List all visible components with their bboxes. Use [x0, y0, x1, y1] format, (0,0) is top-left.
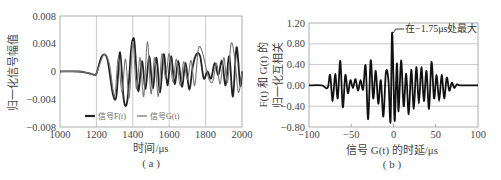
chart-b-peak-annotation: 在−1.75μs处最大	[393, 22, 477, 34]
y-tick-label: −0.004	[26, 94, 56, 105]
x-tick-label: 1200	[86, 129, 107, 140]
series-line	[309, 33, 478, 123]
y-tick-label: 0.00	[287, 80, 305, 91]
y-tick-label: −0.40	[281, 101, 305, 112]
y-tick-label: 0.008	[32, 11, 56, 22]
chart-panel-a: −0.008−0.00400.0040.008 1000120014001600…	[6, 11, 253, 171]
chart-b-caption: ( b )	[383, 158, 402, 171]
legend-label-g: 信号G(t)	[150, 111, 180, 121]
x-tick-label: 1800	[195, 129, 216, 140]
chart-a-y-tick-labels: −0.008−0.00400.0040.008	[26, 11, 56, 133]
y-tick-label: 0.004	[32, 38, 56, 49]
annotation-text: 在−1.75μs处最大	[405, 22, 477, 34]
chart-a-y-axis-label: 归一化信号幅值	[6, 34, 19, 111]
chart-b-y-tick-labels: −0.80−0.400.000.400.801.20	[281, 18, 305, 133]
chart-b-x-tick-labels: −100−50050100	[298, 129, 486, 140]
legend-label-f: 信号F(t)	[98, 111, 126, 121]
y-tick-label: 0	[51, 66, 56, 77]
x-tick-label: −100	[298, 129, 320, 140]
x-tick-label: 1000	[50, 129, 71, 140]
chart-b-series	[309, 33, 478, 123]
figure: −0.008−0.00400.0040.008 1000120014001600…	[0, 0, 501, 180]
annotation-leader-line	[393, 29, 404, 33]
chart-b-y-axis-label-line2: 归一化互相关	[271, 42, 284, 108]
chart-b-x-axis-label: 信号 G(t) 的时延/μs	[346, 143, 438, 157]
chart-a-caption: ( a )	[142, 157, 160, 170]
chart-a-legend: 信号F(t) 信号G(t)	[85, 111, 180, 121]
x-tick-label: 1600	[159, 129, 180, 140]
y-tick-label: 1.20	[287, 18, 305, 29]
chart-panel-b: −0.80−0.400.000.400.801.20 −100−50050100…	[256, 18, 486, 172]
chart-a-x-tick-labels: 100012001400160018002000	[50, 129, 253, 140]
chart-b-y-axis-label-line1: F(t) 和 G(t) 的	[256, 42, 270, 107]
x-tick-label: 50	[431, 129, 442, 140]
x-tick-label: 2000	[232, 129, 253, 140]
y-tick-label: 0.40	[287, 59, 305, 70]
chart-a-x-axis-label: 时间/μs	[133, 142, 168, 154]
x-tick-label: −50	[343, 129, 359, 140]
y-tick-label: 0.80	[287, 38, 305, 49]
x-tick-label: 0	[391, 129, 396, 140]
x-tick-label: 100	[470, 129, 486, 140]
chart-a-series	[60, 38, 242, 106]
x-tick-label: 1400	[122, 129, 143, 140]
